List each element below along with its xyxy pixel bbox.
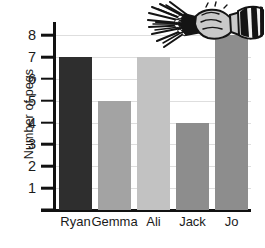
x-category-label-jo: Jo: [202, 214, 262, 229]
y-tick-label: 5: [20, 93, 36, 108]
bar-ryan: [59, 57, 92, 210]
y-tick-label: 3: [20, 137, 36, 152]
y-tick-label: 8: [20, 28, 36, 43]
y-tick-label: 4: [20, 115, 36, 130]
y-tick-label: 1: [20, 181, 36, 196]
bar-jack: [176, 123, 209, 210]
bar-gemma: [98, 101, 131, 210]
peg-bar-chart: Number of pegs 12345678 RyanGemmaAliJack…: [0, 0, 265, 248]
x-axis-category-labels: RyanGemmaAliJackJo: [56, 214, 256, 238]
plot-area: [56, 22, 251, 210]
y-axis-tick-labels: 12345678: [14, 0, 36, 248]
bars-group: [56, 22, 251, 210]
y-tick-label: 6: [20, 72, 36, 87]
bar-ali: [137, 57, 170, 210]
y-tick-label: 7: [20, 50, 36, 65]
y-tick-label: 2: [20, 159, 36, 174]
bar-jo: [215, 35, 248, 210]
